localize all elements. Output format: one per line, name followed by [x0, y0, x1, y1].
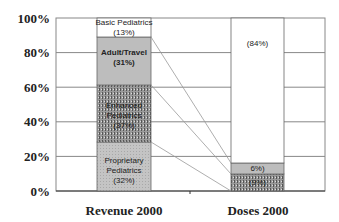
segment-name: Enhanced [97, 101, 151, 111]
doses-label-top: (84%) [231, 39, 284, 49]
y-tick-80: 80% [0, 46, 50, 60]
segment-pct: (32%) [97, 176, 151, 186]
segment-name: Pediatrics [97, 166, 151, 176]
segment-label-adult-travel: Adult/Travel (31%) [97, 48, 151, 68]
chart-canvas [0, 0, 339, 222]
segment-pct: (37%) [97, 121, 151, 131]
y-tick-60: 60% [0, 81, 50, 95]
y-tick-0: 0% [0, 185, 50, 199]
segment-name: Pediatrics [97, 111, 151, 121]
segment-label-basic-pediatrics: Basic Pediatrics (13%) [92, 18, 156, 38]
segment-label-proprietary-pediatrics: Proprietary Pediatrics (32%) [97, 156, 151, 186]
x-label-revenue: Revenue 2000 [74, 203, 174, 219]
segment-name: Adult/Travel [97, 48, 151, 58]
x-label-doses: Doses 2000 [208, 203, 308, 219]
doses-label-mid: 6%) [231, 164, 284, 174]
doses-label-bottom: (9%) [231, 178, 284, 188]
segment-label-enhanced-pediatrics: Enhanced Pediatrics (37%) [97, 101, 151, 131]
segment-pct: (31%) [97, 58, 151, 68]
segment-pct: (13%) [92, 28, 156, 38]
y-tick-40: 40% [0, 115, 50, 129]
segment-name: Proprietary [97, 156, 151, 166]
y-tick-100: 100% [0, 12, 50, 26]
y-tick-20: 20% [0, 150, 50, 164]
segment-name: Basic Pediatrics [92, 18, 156, 28]
